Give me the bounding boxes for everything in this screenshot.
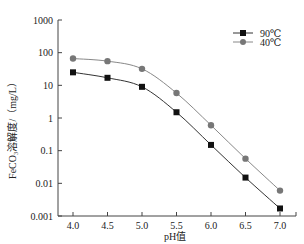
- y-axis-ticks: 0.0010.010.11101001000: [31, 15, 63, 222]
- circle-marker: [70, 55, 76, 61]
- y-tick-label: 0.001: [31, 211, 54, 222]
- x-tick-label: 6.0: [205, 220, 218, 231]
- square-marker: [243, 175, 249, 181]
- y-tick-label: 100: [38, 47, 53, 58]
- x-tick-label: 5.0: [136, 220, 149, 231]
- x-tick-label: 7.0: [274, 220, 287, 231]
- x-tick-label: 5.5: [170, 220, 183, 231]
- axes: [58, 20, 296, 216]
- circle-marker: [208, 122, 214, 128]
- chart: 0.0010.010.11101001000 4.04.55.05.56.06.…: [0, 0, 304, 244]
- square-marker: [139, 84, 145, 90]
- square-marker: [277, 205, 283, 211]
- circle-marker: [242, 155, 248, 161]
- legend-circle-marker: [240, 39, 246, 45]
- square-marker: [174, 109, 180, 115]
- circle-marker: [139, 66, 145, 72]
- circle-marker: [173, 90, 179, 96]
- data-series: [70, 55, 283, 211]
- x-tick-label: 4.5: [101, 220, 114, 231]
- y-tick-label: 1: [48, 113, 53, 124]
- y-tick-label: 0.01: [36, 178, 54, 189]
- circle-marker: [104, 58, 110, 64]
- y-tick-label: 0.1: [41, 145, 54, 156]
- square-marker: [70, 69, 76, 75]
- x-tick-label: 6.5: [239, 220, 252, 231]
- square-marker: [105, 75, 111, 81]
- legend-label: 40℃: [260, 37, 281, 48]
- square-marker: [208, 142, 214, 148]
- y-axis-label: FeCO₃溶解度/（mg/L）: [6, 77, 18, 179]
- legend-square-marker: [240, 30, 246, 36]
- y-tick-label: 1000: [33, 15, 53, 26]
- series-line-40℃: [73, 59, 280, 191]
- x-axis-ticks: 4.04.55.05.56.06.57.0: [67, 212, 287, 231]
- y-tick-label: 10: [43, 80, 53, 91]
- circle-marker: [277, 187, 283, 193]
- x-tick-label: 4.0: [67, 220, 80, 231]
- legend: 90℃40℃: [233, 28, 281, 48]
- x-axis-label: pH值: [164, 230, 186, 242]
